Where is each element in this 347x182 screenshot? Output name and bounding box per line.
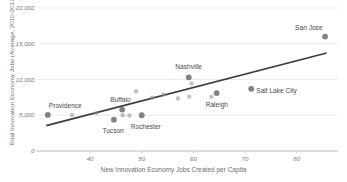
point-label-nashville: Nashville (175, 63, 202, 70)
axis-lines (37, 151, 339, 154)
point-label-san-jose: San Jose (295, 24, 323, 31)
data-point-13 (189, 81, 193, 85)
data-point-9 (150, 96, 154, 100)
data-point-san-jose (322, 34, 328, 40)
data-point-nashville (186, 74, 192, 80)
x-tick-label-40: 40 (78, 155, 102, 162)
data-point-raleigh (214, 90, 220, 96)
data-point-2 (94, 111, 98, 115)
data-point-1 (70, 113, 74, 117)
x-axis-title: New Innovation Economy Jobs Created per … (0, 166, 347, 173)
point-label-tucson: Tucson (102, 127, 123, 134)
data-point-6 (127, 113, 131, 117)
x-tick-label-80: 80 (285, 155, 309, 162)
point-label-salt-lake-city: Salt Lake City (256, 87, 297, 94)
y-tick-label-10000: 10,000 (5, 76, 35, 83)
data-point-14 (187, 94, 191, 98)
y-tick-label-5000: 5,000 (5, 111, 35, 118)
x-tick-label-50: 50 (130, 155, 154, 162)
data-point-10 (161, 92, 165, 96)
data-point-tucson (111, 117, 117, 123)
data-points (45, 34, 328, 123)
data-point-buffalo (119, 107, 125, 113)
data-point-salt-lake-city (248, 86, 254, 92)
scatter-chart: Total Innovation Economy Jobs (Average, … (0, 0, 347, 182)
point-label-rochester: Rochester (131, 123, 161, 130)
x-tick-label-60: 60 (181, 155, 205, 162)
point-label-buffalo: Buffalo (110, 96, 130, 103)
data-point-rochester (139, 112, 145, 118)
y-axis-title-text: Total Innovation Economy Jobs (Average, … (8, 0, 15, 146)
x-tick-label-70: 70 (233, 155, 257, 162)
y-tick-label-15000: 15,000 (5, 40, 35, 47)
data-point-5 (120, 113, 124, 117)
data-point-providence (45, 112, 51, 118)
point-label-raleigh: Raleigh (206, 101, 228, 108)
point-label-providence: Providence (49, 102, 82, 109)
y-tick-label-0: 0 (5, 147, 35, 154)
y-tick-label-20000: 20,000 (5, 4, 35, 11)
data-point-16 (209, 94, 213, 98)
data-point-11 (176, 96, 180, 100)
data-point-8 (134, 89, 138, 93)
